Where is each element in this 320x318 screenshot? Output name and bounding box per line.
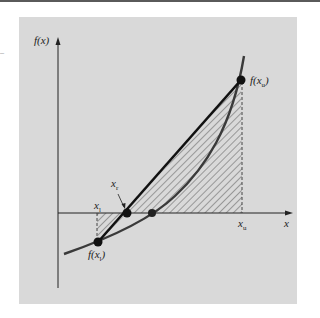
point-f-xl xyxy=(94,238,103,247)
y-axis-arrow-icon xyxy=(56,37,61,45)
xr-pointer-arrow-icon xyxy=(122,203,126,209)
x-axis-label: x xyxy=(284,217,289,229)
xu-sub: u xyxy=(243,224,247,232)
xl-label: xl xyxy=(94,199,101,214)
xl-sub: l xyxy=(99,206,101,214)
point-xr xyxy=(123,209,132,218)
xr-sub: r xyxy=(116,184,118,192)
y-axis-label: f(x) xyxy=(34,34,49,46)
f-xl-label: f(xl) xyxy=(88,248,105,263)
point-true-root xyxy=(148,209,156,217)
false-position-diagram xyxy=(0,0,320,318)
point-f-xu xyxy=(237,76,246,85)
x-axis-arrow-icon xyxy=(285,211,293,216)
xr-label: xr xyxy=(111,177,118,192)
f-xl-paren: ) xyxy=(102,248,106,260)
f-xl-text: f(x xyxy=(88,248,100,260)
f-xu-text: f(x xyxy=(250,74,262,86)
f-xu-label: f(xu) xyxy=(250,74,269,89)
f-xu-paren: ) xyxy=(265,74,269,86)
xu-label: xu xyxy=(238,217,246,232)
